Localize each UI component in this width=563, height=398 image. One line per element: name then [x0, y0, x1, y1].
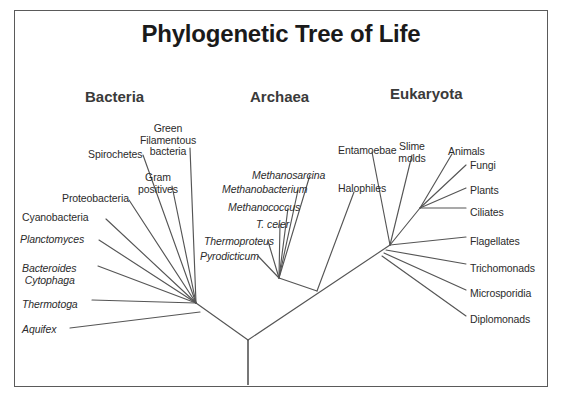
phylogenetic-tree-figure: Phylogenetic Tree of Life BacteriaArchae… — [0, 0, 563, 398]
branch-root-to-archaea-euk — [248, 245, 390, 340]
leaf-label-fungi: Fungi — [470, 160, 496, 172]
branch-flagellates — [390, 237, 466, 245]
branch-fungi — [420, 165, 466, 208]
branch-root-to-bacteria — [196, 303, 248, 340]
leaf-label-proteobacteria: Proteobacteria — [62, 193, 129, 205]
leaf-label-diplomonads: Diplomonads — [470, 314, 530, 326]
branch-plants — [420, 188, 466, 208]
leaf-label-thermotoga: Thermotoga — [22, 299, 78, 311]
leaf-label-pyrodicticum: Pyrodicticum — [200, 251, 259, 263]
leaf-label-animals: Animals — [448, 146, 485, 158]
leaf-label-bacteroides-cytophaga: Bacteroides Cytophaga — [22, 263, 76, 286]
branch-trichomonads — [386, 250, 466, 264]
branch-entamoebae — [372, 152, 390, 245]
bacteria-header: Bacteria — [85, 88, 144, 105]
archaea-header: Archaea — [250, 88, 309, 105]
leaf-label-t-celer: T. celer — [256, 219, 289, 231]
branch-diplomonads — [382, 256, 466, 316]
leaf-label-methanosarcina: Methanosarcina — [252, 170, 325, 182]
leaf-label-flagellates: Flagellates — [470, 236, 520, 248]
leaf-label-ciliates: Ciliates — [470, 207, 504, 219]
leaf-label-aquifex: Aquifex — [22, 324, 56, 336]
branch-archaea-stem — [279, 278, 317, 291]
branch-aquifex — [70, 312, 200, 328]
leaf-label-halophiles: Halophiles — [338, 183, 386, 195]
leaf-label-microsporidia: Microsporidia — [470, 288, 531, 300]
leaf-label-green-filamentous-bacteria: Green Filamentous bacteria — [108, 123, 228, 158]
branch-microsporidia — [384, 253, 466, 290]
branch-halophiles — [317, 192, 354, 291]
eukaryota-header: Eukaryota — [390, 85, 463, 102]
leaf-label-cyanobacteria: Cyanobacteria — [22, 212, 88, 224]
leaf-label-thermoproteus: Thermoproteus — [204, 236, 274, 248]
leaf-label-methanococcus: Methanococcus — [228, 202, 300, 214]
leaf-label-planctomyces: Planctomyces — [20, 234, 84, 246]
leaf-label-methanobacterium: Methanobacterium — [222, 184, 307, 196]
branch-cyanobacteria — [106, 219, 196, 303]
leaf-label-trichomonads: Trichomonads — [470, 263, 535, 275]
leaf-label-plants: Plants — [470, 185, 499, 197]
branch-thermotoga — [92, 300, 196, 303]
